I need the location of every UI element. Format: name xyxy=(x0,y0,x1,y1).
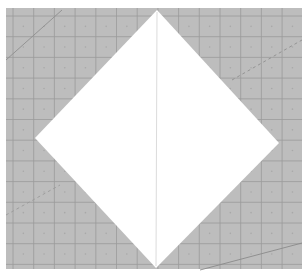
photo-scene xyxy=(0,0,308,277)
photo-canvas xyxy=(0,0,308,277)
